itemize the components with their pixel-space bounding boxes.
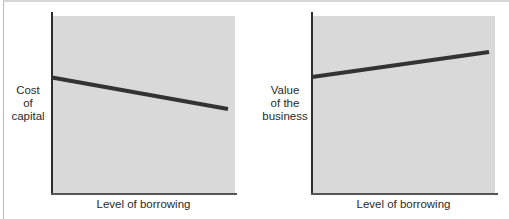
series-line (52, 76, 229, 112)
x-axis (311, 193, 498, 195)
x-axis-label: Level of borrowing (312, 198, 495, 210)
x-axis (51, 193, 237, 195)
x-axis-label: Level of borrowing (52, 198, 235, 210)
plot-area (312, 16, 495, 193)
series-line (312, 50, 490, 80)
y-axis-label: Value of the business (258, 84, 312, 123)
y-axis-label: Cost of capital (5, 84, 51, 123)
